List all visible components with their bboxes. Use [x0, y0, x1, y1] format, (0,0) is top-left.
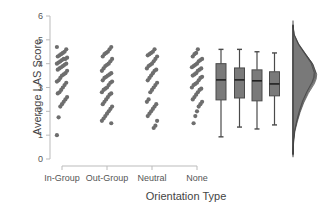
data-point	[193, 114, 197, 118]
data-point	[191, 54, 195, 58]
data-point	[190, 85, 194, 89]
data-point	[146, 78, 150, 82]
data-point	[55, 133, 59, 137]
boxplot	[252, 52, 262, 129]
data-point	[148, 90, 152, 94]
data-point	[100, 119, 104, 123]
boxplot	[216, 49, 226, 136]
x-tick-label: None	[186, 173, 208, 183]
y-tick-label: 0	[38, 154, 43, 164]
data-point	[190, 65, 194, 69]
x-axis-title: Orientation Type	[146, 190, 227, 202]
raincloud-chart: 0123456 In-GroupOut-GroupNeutralNone Ave…	[0, 0, 332, 213]
data-point	[100, 69, 104, 73]
data-point	[146, 53, 150, 57]
data-point	[109, 121, 113, 125]
data-point	[152, 126, 156, 130]
data-point	[197, 104, 201, 108]
y-tick-label: 6	[38, 11, 43, 21]
data-point	[55, 79, 59, 83]
data-point	[101, 54, 105, 58]
data-point	[155, 119, 159, 123]
data-point	[101, 78, 105, 82]
x-tick-label: In-Group	[44, 173, 80, 183]
data-point	[58, 104, 62, 108]
data-point	[145, 66, 149, 70]
boxplot	[270, 53, 280, 125]
x-tick-label: Out-Group	[86, 173, 129, 183]
x-axis: In-GroupOut-GroupNeutralNone	[44, 166, 208, 183]
strip-points	[55, 45, 204, 137]
density-curves	[293, 21, 317, 158]
data-point	[100, 90, 104, 94]
boxplots	[216, 49, 280, 136]
data-point	[55, 62, 59, 66]
y-axis-title: Average LAS Score	[31, 39, 43, 135]
data-point	[56, 91, 60, 95]
data-point	[55, 45, 59, 49]
data-point	[56, 54, 60, 58]
data-point	[146, 114, 150, 118]
data-point	[195, 109, 199, 113]
x-tick-label: Neutral	[137, 173, 166, 183]
data-point	[191, 73, 195, 77]
data-point	[145, 100, 149, 104]
data-point	[192, 121, 196, 125]
data-point	[196, 47, 200, 51]
data-point	[56, 68, 60, 72]
boxplot	[235, 49, 245, 127]
data-point	[101, 102, 105, 106]
data-point	[57, 115, 61, 119]
data-point	[191, 97, 195, 101]
